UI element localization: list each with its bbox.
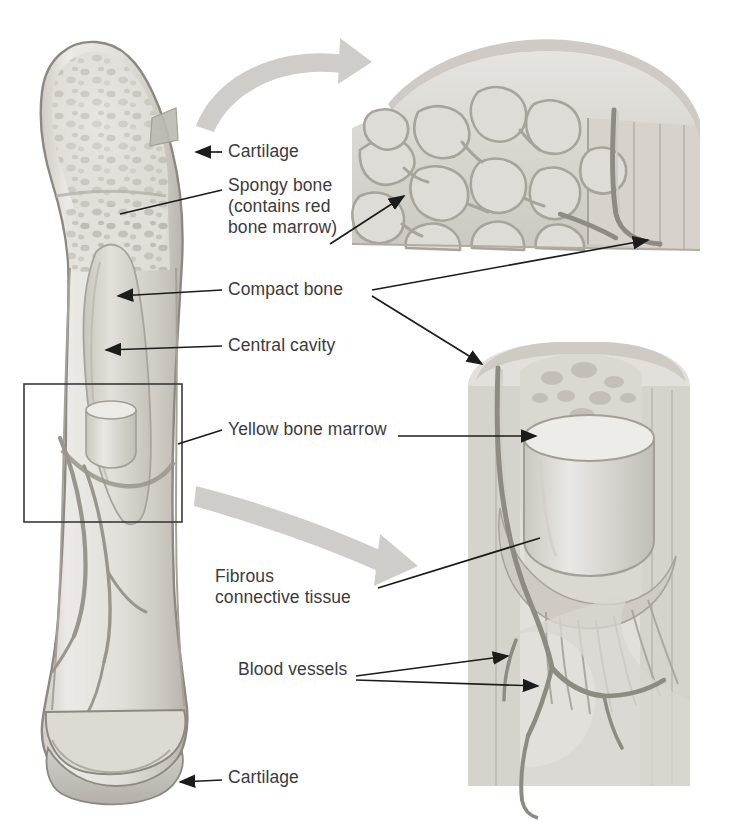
curved-arrow-to-top-inset [196, 38, 372, 132]
leader-marrow-left [178, 430, 222, 444]
inset-spongy-bone [352, 39, 700, 250]
vessel-tail [522, 800, 538, 818]
figure-canvas: Cartilage Spongy bone (contains red bone… [0, 0, 732, 826]
label-spongy-bone: Spongy bone (contains red bone marrow) [228, 175, 337, 238]
label-yellow-bone-marrow: Yellow bone marrow [228, 419, 387, 440]
whole-bone-illustration [41, 42, 188, 805]
label-central-cavity: Central cavity [228, 335, 335, 356]
label-fibrous-connective-tissue: Fibrous connective tissue [215, 566, 351, 608]
label-cartilage-bottom: Cartilage [228, 767, 299, 788]
leader-cartilage-bottom [180, 780, 222, 782]
marrow-plug-small [86, 401, 136, 468]
label-cartilage-top: Cartilage [228, 141, 299, 162]
leader-compact-to-lower-inset [372, 296, 482, 364]
inset-marrow-vessels [468, 342, 690, 818]
label-blood-vessels: Blood vessels [238, 659, 347, 680]
label-compact-bone: Compact bone [228, 279, 343, 300]
illustration-svg [0, 0, 732, 826]
yellow-marrow-plug [524, 415, 654, 576]
